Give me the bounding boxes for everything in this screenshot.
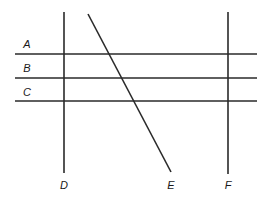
label-e: E <box>167 179 175 191</box>
label-c: C <box>23 86 31 98</box>
labels: A B C D E F <box>22 38 232 191</box>
label-f: F <box>225 179 233 191</box>
line-e <box>88 14 171 172</box>
label-a: A <box>22 38 30 50</box>
other-lines <box>64 12 228 174</box>
horizontal-lines <box>15 54 257 101</box>
label-d: D <box>60 179 68 191</box>
line-diagram: A B C D E F <box>0 0 267 197</box>
label-b: B <box>23 62 30 74</box>
